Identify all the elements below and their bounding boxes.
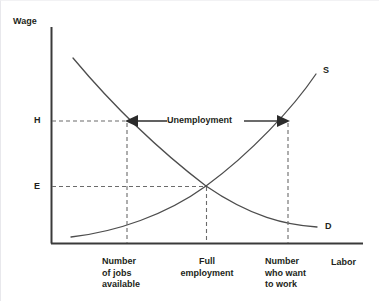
dashed-guides-group bbox=[52, 121, 288, 243]
demand-curve-label: D bbox=[325, 221, 332, 232]
y-axis-label: Wage bbox=[13, 16, 37, 27]
x-axis-label: Labor bbox=[331, 257, 356, 268]
y-tick-label-e: E bbox=[34, 181, 40, 192]
labor-market-diagram: Wage Labor H E S D Unemployment Number o… bbox=[0, 0, 379, 301]
x-tick-label-jobs-available: Number of jobs available bbox=[102, 256, 140, 291]
unemployment-annotation-label: Unemployment bbox=[167, 115, 232, 126]
supply-curve-label: S bbox=[323, 65, 329, 76]
x-tick-label-full-employment: Full employment bbox=[179, 256, 235, 279]
x-tick-label-want-to-work: Number who want to work bbox=[265, 256, 306, 291]
y-tick-label-h: H bbox=[34, 115, 41, 126]
demand-curve bbox=[73, 58, 317, 227]
supply-curve bbox=[71, 74, 316, 237]
